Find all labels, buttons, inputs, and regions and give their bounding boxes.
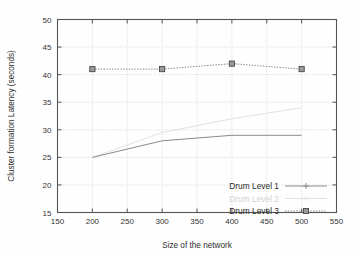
y-tick-label: 35: [43, 98, 52, 107]
y-axis-title: Cluster formation Latency (seconds): [7, 50, 16, 182]
x-tick-label: 400: [225, 217, 239, 226]
x-tick-label: 250: [121, 217, 135, 226]
data-point-marker: [299, 67, 304, 72]
legend-label: Drum Level 2: [229, 194, 279, 204]
y-tick-label: 45: [43, 43, 52, 52]
y-tick-label: 20: [43, 181, 52, 190]
x-tick-label: 500: [295, 217, 309, 226]
y-tick-label: 50: [43, 16, 52, 25]
data-point-marker: [303, 208, 308, 213]
x-axis-title: Size of the network: [162, 241, 233, 250]
x-tick-label: 550: [330, 217, 344, 226]
y-tick-label: 25: [43, 153, 52, 162]
x-tick-labels: 150200250300350400450500550: [51, 217, 344, 226]
data-point-marker: [160, 67, 165, 72]
legend-label: Drum Level 3: [229, 206, 279, 216]
x-tick-label: 150: [51, 217, 65, 226]
data-point-marker: [90, 67, 95, 72]
data-point-marker: [229, 61, 234, 66]
x-tick-label: 350: [190, 217, 204, 226]
y-tick-label: 40: [43, 71, 52, 80]
y-tick-label: 15: [43, 209, 52, 218]
x-tick-label: 300: [155, 217, 169, 226]
x-tick-label: 450: [260, 217, 274, 226]
chart-container: 150200250300350400450500550 152025303540…: [0, 0, 357, 256]
y-tick-label: 30: [43, 126, 52, 135]
legend-label: Drum Level 1: [229, 181, 279, 191]
x-tick-label: 200: [86, 217, 100, 226]
line-chart: 150200250300350400450500550 152025303540…: [0, 0, 357, 256]
